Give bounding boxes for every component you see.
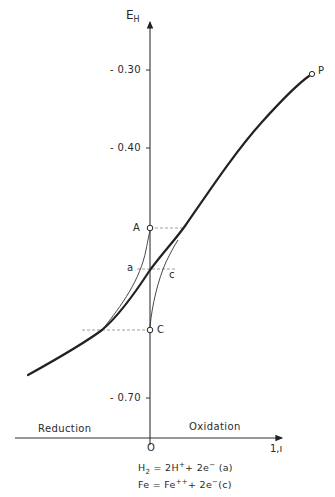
- eq1-tag: (a): [215, 462, 232, 473]
- origin-label: O: [147, 443, 155, 453]
- y-axis-title-main: E: [126, 8, 134, 22]
- point-P-marker: [309, 71, 314, 76]
- equation-hydrogen: H2 = 2H++ 2e− (a): [138, 462, 233, 476]
- point-P-label: P: [318, 66, 324, 76]
- curve-c-label: c: [169, 270, 175, 280]
- eq2-lhs-sup: ++: [176, 478, 188, 486]
- eq1-mid: = 2H: [150, 462, 179, 473]
- y-axis-title-sub: H: [134, 15, 140, 24]
- tick-label-070: - 0.70: [110, 393, 141, 403]
- eq1-rhs: + 2e: [185, 462, 209, 473]
- x-axis-end-label: 1,ı: [270, 444, 282, 454]
- equation-iron: Fe = Fe+++ 2e−(c): [138, 479, 232, 490]
- y-axis-title: EH: [126, 9, 140, 24]
- tick-label-030: - 0.30: [110, 65, 141, 75]
- main-polarization-curve: [28, 76, 309, 375]
- eq2-rhs: + 2e: [188, 479, 212, 490]
- tick-label-040: - 0.40: [110, 143, 141, 153]
- point-C-marker: [147, 327, 153, 333]
- point-A-marker: [147, 225, 153, 231]
- point-A-label: A: [133, 223, 140, 233]
- curve-a-label: a: [127, 263, 133, 273]
- oxidation-label: Oxidation: [189, 422, 241, 432]
- eq2-lhs: Fe = Fe: [138, 479, 176, 490]
- point-C-label: C: [157, 325, 164, 335]
- reduction-label: Reduction: [38, 424, 92, 434]
- eq2-tag: (c): [218, 479, 232, 490]
